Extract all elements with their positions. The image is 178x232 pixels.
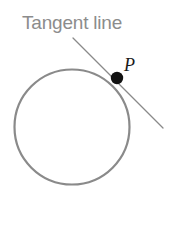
point-p-label: P (124, 56, 135, 74)
tangent-point-dot (111, 72, 123, 84)
tangent-circle-figure: Tangent line P (0, 0, 178, 232)
geometry-diagram (0, 0, 178, 232)
tangent-line-label: Tangent line (22, 13, 122, 32)
circle-shape (15, 70, 130, 185)
